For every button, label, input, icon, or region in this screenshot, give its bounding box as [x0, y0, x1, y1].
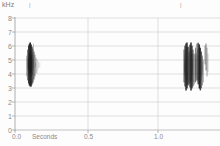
x-axis-ticks: [15, 130, 158, 133]
spectrogram-figure: kHz 8 7 6 5 4 3 2 1 0 0.0 Seconds 0.5 1.…: [0, 0, 220, 146]
spectrogram-canvas: [0, 0, 220, 146]
burst-2-signal: [184, 43, 208, 90]
y-axis-line: [12, 17, 15, 131]
burst-1-signal: [27, 43, 40, 86]
